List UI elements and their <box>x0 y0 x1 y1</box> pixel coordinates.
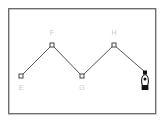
zigzag-polyline <box>21 45 145 76</box>
vertex-marker-f <box>50 43 54 47</box>
bob-anchor-square <box>143 71 147 75</box>
figure-canvas: E F G H <box>0 0 166 124</box>
bob-base-block <box>142 85 149 90</box>
vertex-label-h: H <box>111 29 116 36</box>
bob-inner-dot <box>144 78 147 81</box>
hanging-bob <box>142 71 149 91</box>
vertex-label-f: F <box>50 29 54 36</box>
physics-diagram: E F G H <box>0 0 166 124</box>
vertex-marker-g <box>80 74 84 78</box>
outer-frame <box>9 9 156 114</box>
vertex-label-g: G <box>79 84 84 91</box>
vertex-label-e: E <box>19 84 24 91</box>
vertex-marker-e <box>19 74 23 78</box>
vertex-marker-h <box>112 43 116 47</box>
